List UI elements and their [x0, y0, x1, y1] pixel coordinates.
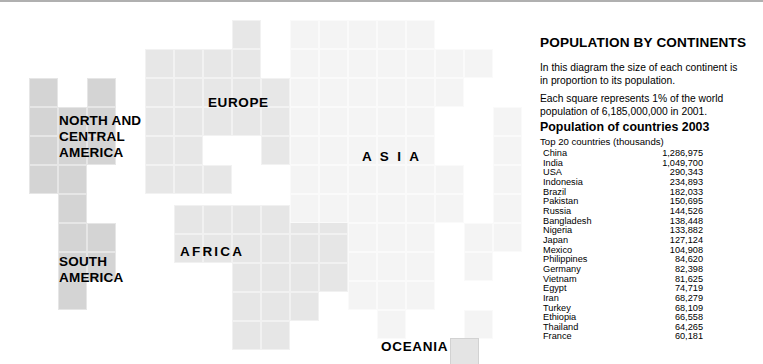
- cartogram-cell-asia: [493, 165, 522, 194]
- cartogram-cell-asia: [493, 107, 522, 136]
- cartogram-cell-africa: [261, 263, 290, 292]
- cartogram-cell-americas: [29, 165, 58, 194]
- cartogram-cell-americas: [87, 78, 116, 107]
- cartogram-cell-asia: [464, 310, 493, 339]
- cartogram-cell-asia: [377, 194, 406, 223]
- cartogram-cell-africa: [261, 234, 290, 263]
- cartogram-cell-asia: [406, 20, 435, 49]
- cartogram-cell-asia: [377, 107, 406, 136]
- cartogram-cell-asia: [464, 252, 493, 281]
- cartogram-cell-africa: [232, 321, 261, 350]
- cartogram-cell-asia: [348, 194, 377, 223]
- cartogram-cell-asia: [406, 49, 435, 78]
- cartogram-cell-europe: [232, 49, 261, 78]
- continent-label-south-america: SOUTH AMERICA: [59, 254, 123, 286]
- cartogram-cell-asia: [435, 165, 464, 194]
- cartogram-cell-asia: [348, 252, 377, 281]
- cartogram-cell-africa: [290, 234, 319, 263]
- cartogram-cell-asia: [406, 165, 435, 194]
- cartogram-cell-asia: [464, 223, 493, 252]
- cartogram-cell-asia: [290, 165, 319, 194]
- cartogram-cell-africa: [290, 263, 319, 292]
- cartogram-cell-americas: [29, 78, 58, 107]
- cartogram-cell-africa: [290, 292, 319, 321]
- cartogram-cell-asia: [319, 107, 348, 136]
- cartogram-cell-asia: [290, 78, 319, 107]
- cartogram-cell-asia: [406, 281, 435, 310]
- cartogram-cell-europe: [174, 136, 203, 165]
- cartogram-cell-europe: [145, 165, 174, 194]
- cartogram-cell-asia: [348, 281, 377, 310]
- cartogram-cell-europe: [145, 78, 174, 107]
- cartogram-cell-asia: [290, 49, 319, 78]
- cartogram-cell-asia: [319, 136, 348, 165]
- cartogram-cell-asia: [493, 136, 522, 165]
- cartogram-cell-europe: [145, 107, 174, 136]
- cartogram-cell-africa: [319, 263, 348, 292]
- cartogram-cell-americas: [87, 223, 116, 252]
- cartogram-cell-asia: [290, 107, 319, 136]
- cartogram-cell-asia: [464, 49, 493, 78]
- cartogram-cell-africa: [261, 205, 290, 234]
- cartogram-cell-asia: [319, 78, 348, 107]
- panel-sub-subtitle: Top 20 countries (thousands): [540, 136, 664, 147]
- cartogram-cell-europe: [174, 49, 203, 78]
- cartogram-cell-asia: [348, 165, 377, 194]
- cartogram-cell-asia: [348, 20, 377, 49]
- cartogram-cell-asia: [377, 49, 406, 78]
- cartogram-cell-asia: [348, 78, 377, 107]
- cartogram-cell-europe: [145, 49, 174, 78]
- cartogram-cell-asia: [377, 281, 406, 310]
- cartogram-cell-asia: [348, 49, 377, 78]
- cartogram-cell-asia: [377, 78, 406, 107]
- cartogram-cell-asia: [406, 194, 435, 223]
- cartogram-cell-europe: [232, 20, 261, 49]
- population-cartogram: NORTH AND CENTRAL AMERICA SOUTH AMERICA …: [0, 2, 530, 364]
- cartogram-cell-asia: [406, 223, 435, 252]
- cartogram-cell-asia: [377, 252, 406, 281]
- cartogram-cell-asia: [319, 165, 348, 194]
- cartogram-cell-asia: [319, 194, 348, 223]
- cartogram-cell-asia: [406, 107, 435, 136]
- cartogram-cell-asia: [290, 194, 319, 223]
- cartogram-cell-asia: [406, 252, 435, 281]
- cartogram-cell-asia: [493, 223, 522, 252]
- cartogram-cell-africa: [261, 292, 290, 321]
- cartogram-cell-europe: [203, 165, 232, 194]
- cartogram-cell-asia: [319, 49, 348, 78]
- cartogram-cell-asia: [319, 20, 348, 49]
- cartogram-cell-europe: [203, 49, 232, 78]
- cartogram-cell-africa: [232, 292, 261, 321]
- cartogram-cell-europe: [261, 136, 290, 165]
- cartogram-cell-africa: [319, 234, 348, 263]
- continent-label-asia: A S I A: [362, 149, 421, 165]
- continent-label-africa: AFRICA: [180, 244, 244, 260]
- cartogram-cell-americas: [29, 107, 58, 136]
- cartogram-cell-americas: [58, 165, 87, 194]
- cartogram-cell-asia: [435, 78, 464, 107]
- panel-title: POPULATION BY CONTINENTS: [540, 35, 746, 50]
- continent-label-oceania: OCEANIA: [381, 339, 448, 355]
- cartogram-cell-americas: [58, 194, 87, 223]
- cartogram-cell-europe: [232, 107, 261, 136]
- cartogram-cell-asia: [435, 49, 464, 78]
- continent-label-europe: EUROPE: [208, 95, 269, 111]
- cartogram-cell-asia: [377, 165, 406, 194]
- cartogram-cell-europe: [203, 107, 232, 136]
- cartogram-cell-europe: [174, 165, 203, 194]
- cartogram-cell-africa: [261, 321, 290, 350]
- country-population-table: China1,286,975India1,049,700USA290,343In…: [543, 149, 703, 342]
- cartogram-cell-asia: [377, 310, 406, 339]
- continent-label-north-america: NORTH AND CENTRAL AMERICA: [59, 113, 141, 161]
- cartogram-cell-africa: [203, 205, 232, 234]
- cartogram-cell-asia: [290, 20, 319, 49]
- infographic-page: NORTH AND CENTRAL AMERICA SOUTH AMERICA …: [0, 0, 763, 364]
- panel-description-1: In this diagram the size of each contine…: [540, 61, 745, 87]
- cartogram-cell-asia: [435, 194, 464, 223]
- cartogram-cell-africa: [232, 205, 261, 234]
- cartogram-cell-europe: [261, 107, 290, 136]
- cartogram-cell-europe: [174, 107, 203, 136]
- cartogram-cell-asia: [290, 136, 319, 165]
- country-name: France: [543, 332, 630, 342]
- cartogram-cell-asia: [348, 107, 377, 136]
